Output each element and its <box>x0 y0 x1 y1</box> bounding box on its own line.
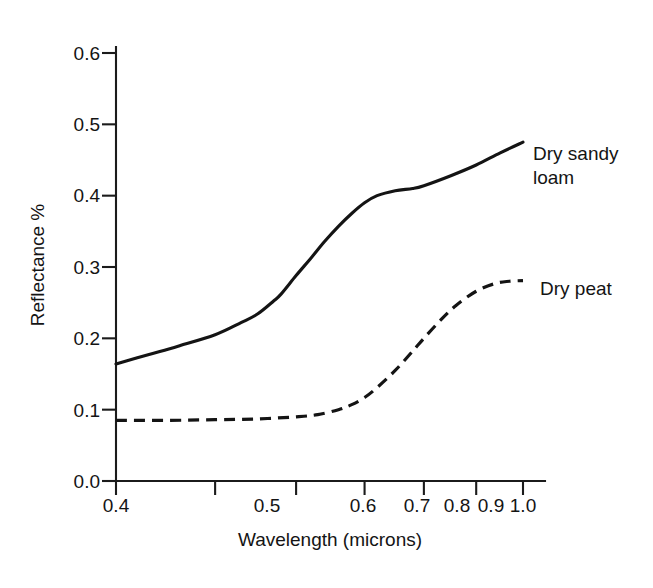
series-label-dry-peat: Dry peat <box>540 278 613 299</box>
series-line-dry-sandy-loam <box>116 142 523 364</box>
y-tick-label-0.6: 0.6 <box>74 43 100 64</box>
x-tick-label-0.9: 0.9 <box>478 495 504 516</box>
y-axis-title: Reflectance % <box>27 204 48 327</box>
x-axis-title: Wavelength (microns) <box>238 529 422 550</box>
y-tick-label-0.3: 0.3 <box>74 257 100 278</box>
y-tick-label-0.0: 0.0 <box>74 471 100 492</box>
reflectance-chart: 0.6 0.5 0.4 0.3 0.2 0.1 0.0 0.4 0.5 0.6 … <box>0 0 653 588</box>
x-tick-label-0.8: 0.8 <box>444 495 470 516</box>
series-line-dry-peat <box>116 281 523 421</box>
y-tick-label-0.2: 0.2 <box>74 328 100 349</box>
y-tick-label-0.5: 0.5 <box>74 114 100 135</box>
y-axis-tick-labels: 0.6 0.5 0.4 0.3 0.2 0.1 0.0 <box>74 43 101 492</box>
x-tick-label-0.7: 0.7 <box>404 495 430 516</box>
x-tick-label-0.5: 0.5 <box>254 495 280 516</box>
x-axis-tick-labels: 0.4 0.5 0.6 0.7 0.8 0.9 1.0 <box>103 495 536 516</box>
x-tick-label-1.0: 1.0 <box>510 495 536 516</box>
x-tick-label-0.4: 0.4 <box>103 495 130 516</box>
x-axis-ticks <box>116 481 523 495</box>
x-tick-label-0.6: 0.6 <box>350 495 376 516</box>
series-label-dry-sandy-loam: Dry sandy loam <box>533 143 619 188</box>
y-tick-label-0.4: 0.4 <box>74 185 101 206</box>
series-label-dry-sandy-loam-line1: Dry sandy <box>533 143 619 164</box>
y-axis-ticks <box>102 53 116 481</box>
series-label-dry-sandy-loam-line2: loam <box>533 167 574 188</box>
y-tick-label-0.1: 0.1 <box>74 400 100 421</box>
chart-canvas: 0.6 0.5 0.4 0.3 0.2 0.1 0.0 0.4 0.5 0.6 … <box>0 0 653 588</box>
